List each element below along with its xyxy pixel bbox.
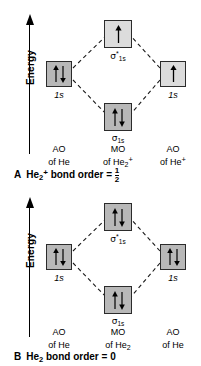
- colcap-line1: MO: [88, 327, 148, 338]
- electron-down-arrow: [60, 65, 66, 83]
- bonding-mo-box-a[interactable]: [104, 103, 132, 131]
- left-ao-box-b[interactable]: [46, 244, 72, 270]
- mo-diagram-panel-b: Energy σ*1s 1s: [0, 183, 201, 366]
- left-ao-box-a[interactable]: [46, 61, 72, 87]
- colcap-line1: AO: [143, 327, 201, 338]
- electron-up-arrow: [115, 25, 122, 44]
- electron-up-arrow: [112, 291, 118, 310]
- colcap-line1: MO: [88, 144, 148, 155]
- mo-diagram-panel-a: Energy σ*1s 1s 1s: [0, 0, 201, 183]
- right-ao-label-a: 1s: [155, 90, 191, 100]
- electron-down-arrow: [119, 291, 125, 310]
- bond-order-text-a: bond order =: [51, 169, 112, 180]
- bond-order-text-b: bond order = 0: [46, 351, 116, 362]
- right-ao-label-b: 1s: [155, 273, 191, 283]
- antibonding-mo-box-a[interactable]: [104, 20, 132, 48]
- energy-axis-b: Energy: [23, 197, 37, 337]
- electron-up-arrow: [167, 248, 173, 266]
- bonding-mo-box-b[interactable]: [104, 286, 132, 314]
- column-caption-right-b: AO of He: [143, 327, 201, 353]
- electron-up-arrow: [170, 65, 177, 83]
- colcap-line1: AO: [143, 144, 201, 155]
- panel-letter-b: B: [14, 351, 21, 362]
- colcap-line2: of He: [143, 338, 201, 354]
- panel-caption-b: BHe2 bond order = 0: [14, 350, 116, 364]
- right-ao-box-a[interactable]: [160, 61, 186, 87]
- electron-down-arrow: [174, 248, 180, 266]
- bonding-mo-label-a: σ1s: [100, 133, 136, 144]
- electron-down-arrow: [119, 108, 125, 127]
- energy-axis-label: Energy: [25, 38, 36, 98]
- antibonding-mo-label-a: σ*1s: [100, 50, 136, 62]
- bonding-mo-label-b: σ1s: [100, 316, 136, 327]
- antibonding-mo-box-b[interactable]: [104, 203, 132, 231]
- colcap-line1: AO: [29, 144, 89, 155]
- electron-up-arrow: [112, 108, 118, 127]
- right-ao-box-b[interactable]: [160, 244, 186, 270]
- antibonding-mo-label-b: σ*1s: [100, 233, 136, 245]
- colcap-line1: AO: [29, 327, 89, 338]
- electron-down-arrow: [119, 208, 125, 227]
- bond-order-fraction-a: 1 2: [115, 167, 119, 184]
- electron-up-arrow: [53, 248, 59, 266]
- electron-down-arrow: [60, 248, 66, 266]
- column-caption-right-a: AO of He+: [143, 144, 201, 170]
- left-ao-label-b: 1s: [41, 273, 77, 283]
- panel-letter-a: A: [14, 169, 21, 180]
- electron-up-arrow: [53, 65, 59, 83]
- colcap-line2: of He+: [143, 155, 201, 171]
- energy-axis-a: Energy: [23, 14, 37, 154]
- panel-caption-a: AHe2+ bond order = 1 2: [14, 167, 119, 184]
- energy-axis-label: Energy: [25, 221, 36, 281]
- left-ao-label-a: 1s: [41, 90, 77, 100]
- electron-up-arrow: [112, 208, 118, 227]
